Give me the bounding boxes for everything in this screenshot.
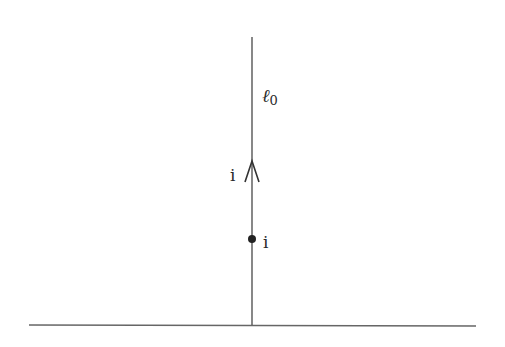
point-label: i bbox=[263, 232, 269, 252]
line-label: ℓ0 bbox=[262, 85, 278, 108]
arrow-label: i bbox=[230, 165, 236, 185]
real-axis bbox=[29, 325, 476, 326]
point-i bbox=[248, 235, 256, 243]
line-label-subscript: 0 bbox=[270, 93, 278, 108]
diagram-canvas: ℓ0 i i bbox=[0, 0, 505, 347]
